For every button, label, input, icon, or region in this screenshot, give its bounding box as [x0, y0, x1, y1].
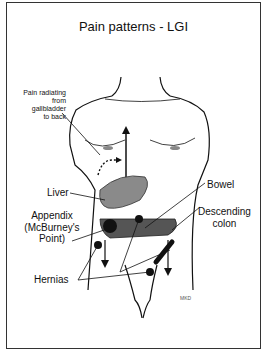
label-line: Pain radiating	[18, 89, 66, 97]
label-line: colon	[198, 218, 251, 230]
label-bowel: Bowel	[207, 179, 234, 191]
torso-illustration: MKD	[0, 0, 267, 353]
label-line: Point)	[24, 233, 80, 245]
label-gallbladder: Pain radiating from gallbladder to back	[18, 89, 66, 121]
svg-text:MKD: MKD	[180, 295, 192, 301]
label-liver: Liver	[47, 187, 69, 199]
label-line: Descending	[198, 206, 251, 218]
label-hernias: Hernias	[34, 274, 68, 286]
label-line: from gallbladder	[18, 97, 66, 113]
label-appendix: Appendix (McBurney's Point)	[24, 210, 80, 245]
label-line: Appendix	[24, 210, 80, 222]
label-line: to back	[18, 113, 66, 121]
label-descending-colon: Descending colon	[198, 206, 251, 229]
label-line: (McBurney's	[24, 222, 80, 234]
